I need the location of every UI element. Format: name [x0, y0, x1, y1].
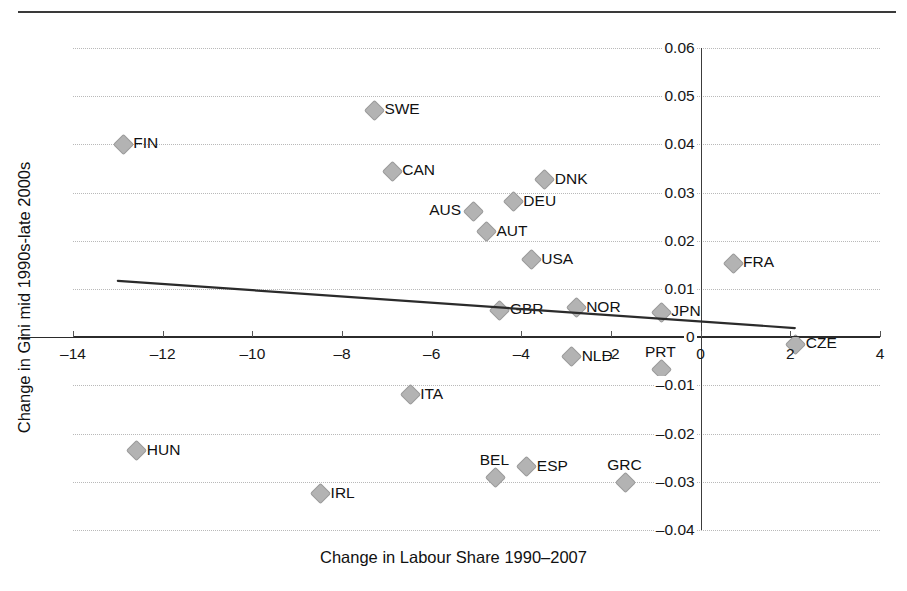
y-axis-title: Change in Gini mid 1990s-late 2000s — [15, 88, 34, 508]
figure: SWEFINCANDNKDEUAUSAUTUSAFRAGBRNORJPNCZEN… — [0, 0, 907, 591]
trend-line — [118, 281, 795, 328]
x-axis-title: Change in Labour Share 1990–2007 — [0, 548, 907, 567]
trendline-svg — [0, 0, 907, 591]
